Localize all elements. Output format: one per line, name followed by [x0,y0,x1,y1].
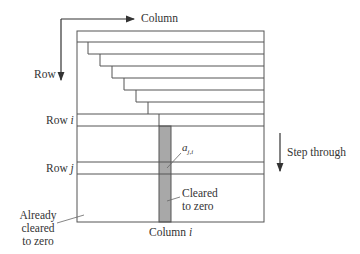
row-i-label: Row i [46,114,74,127]
row-j-label: Row j [46,162,74,175]
step-through-label: Step through [287,146,346,159]
axis-arrows [61,19,134,80]
column-axis-label: Column [141,12,178,25]
row-axis-label: Row [34,68,56,81]
column-i-label: Column i [149,226,192,239]
cleared-to-zero-label: Cleared to zero [182,187,218,213]
diagram: Column Row Row i Row j aj,i Step through… [0,0,360,254]
already-cleared-label: Already cleared to zero [18,209,58,248]
element-aji-label: aj,i [182,141,193,159]
